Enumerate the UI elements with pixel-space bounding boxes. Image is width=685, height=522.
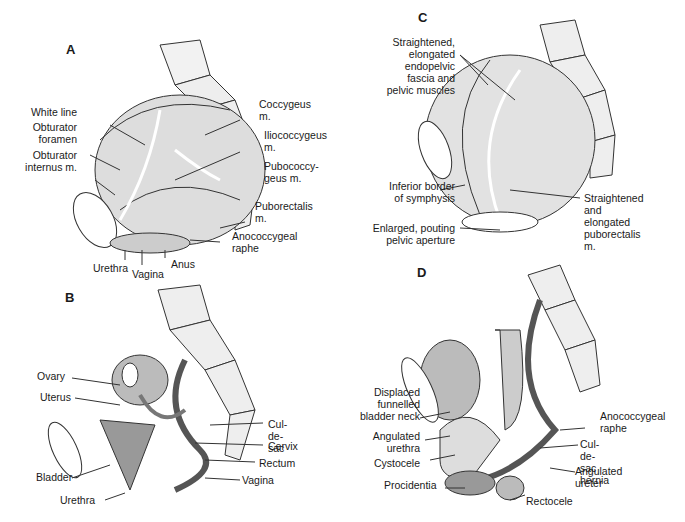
label-straightened-puborectalis: Straightened and elongated puborectalis … <box>584 192 644 252</box>
label-urethra-b: Urethra <box>60 494 95 506</box>
label-rectum: Rectum <box>259 457 295 469</box>
label-white-line: White line <box>5 106 77 118</box>
label-uterus: Uterus <box>40 391 71 403</box>
label-anococcygeal-raphe: Anococcygeal raphe <box>232 230 297 254</box>
label-rectocele: Rectocele <box>526 495 573 507</box>
label-angulated-ureter: Angulated ureter <box>575 465 622 489</box>
panel-letter-d: D <box>417 265 426 280</box>
panel-letter-c: C <box>418 10 427 25</box>
label-ovary: Ovary <box>37 370 65 382</box>
label-vagina-a: Vagina <box>132 268 164 280</box>
panel-letter-b: B <box>65 290 74 305</box>
label-obturator-foramen: Obturator foramen <box>5 121 77 145</box>
label-cervix: Cervix <box>268 440 298 452</box>
label-straightened-fascia: Straightened, elongated endopelvic fasci… <box>360 36 455 96</box>
label-displaced-bladder-neck: Displaced funnelled bladder neck <box>340 386 420 422</box>
label-anus: Anus <box>171 258 195 270</box>
panel-b-drawing <box>41 285 263 500</box>
label-coccygeus: Coccygeus m. <box>259 98 311 122</box>
label-bladder: Bladder <box>36 471 72 483</box>
panel-letter-a: A <box>66 42 75 57</box>
label-urethra-a: Urethra <box>93 262 128 274</box>
label-cystocele: Cystocele <box>340 457 420 469</box>
label-anococcygeal-raphe-d: Anococcygeal raphe <box>600 410 665 434</box>
label-iliococcygeus: Iliococcygeus m. <box>264 129 327 153</box>
label-enlarged-pelvic-aperture: Enlarged, pouting pelvic aperture <box>355 222 455 246</box>
label-vagina-b: Vagina <box>242 474 274 486</box>
label-procidentia: Procidentia <box>384 479 437 491</box>
label-inferior-border-symphysis: Inferior border of symphysis <box>355 180 455 204</box>
label-angulated-urethra: Angulated urethra <box>340 430 420 454</box>
panel-d-drawing <box>394 265 600 500</box>
label-puborectalis: Puborectalis m. <box>255 200 313 224</box>
label-obturator-internus: Obturator internus m. <box>5 149 77 173</box>
label-pubococcygeus: Pubococcy- geus m. <box>264 160 319 184</box>
